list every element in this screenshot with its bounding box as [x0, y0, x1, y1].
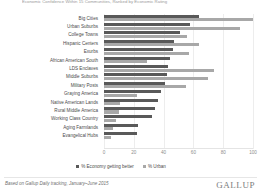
category-label: Graying America	[0, 90, 101, 98]
bar-urban	[104, 136, 111, 139]
chart-title: Economic Confidence Within 15 Communitie…	[22, 0, 238, 5]
category-label: Hispanic Centers	[0, 39, 101, 47]
bar-urban	[104, 69, 214, 72]
category-label: Exurbs	[0, 48, 101, 56]
bar-row	[104, 22, 253, 30]
bar-row	[104, 31, 253, 39]
x-tick-label: 40	[161, 150, 166, 155]
bar-urban	[104, 60, 147, 63]
bar-row	[104, 14, 253, 22]
legend-label: % Economy getting better	[81, 164, 134, 169]
legend: % Economy getting better% Urban	[76, 164, 166, 169]
bar-urban	[104, 43, 199, 46]
footer-divider	[4, 177, 257, 178]
bar-row	[104, 81, 253, 89]
category-label: Rural Middle America	[0, 106, 101, 114]
bar-urban	[104, 27, 240, 30]
x-tick-label: 80	[221, 150, 226, 155]
bar-urban	[104, 35, 187, 38]
bar-row	[104, 98, 253, 106]
bar-row	[104, 56, 253, 64]
bar-urban	[104, 110, 119, 113]
bar-rows	[104, 14, 253, 149]
x-axis-line	[104, 148, 253, 149]
bar-urban	[104, 102, 120, 105]
category-label: African American South	[0, 56, 101, 64]
category-label: Evangelical Hubs	[0, 131, 101, 139]
legend-item-urban[interactable]: % Urban	[143, 164, 166, 169]
legend-label: % Urban	[148, 164, 166, 169]
category-label: Military Posts	[0, 81, 101, 89]
bar-urban	[104, 94, 137, 97]
category-label: Big Cities	[0, 14, 101, 22]
gridline	[253, 14, 254, 149]
bar-row	[104, 48, 253, 56]
chart-container: Economic Confidence Within 15 Communitie…	[0, 0, 261, 194]
category-label: Urban Suburbs	[0, 22, 101, 30]
bar-row	[104, 123, 253, 131]
category-label: Aging Farmlands	[0, 123, 101, 131]
source-note: Based on Gallup Daily tracking, January–…	[5, 181, 109, 186]
bar-row	[104, 39, 253, 47]
bar-urban	[104, 77, 208, 80]
bar-row	[104, 106, 253, 114]
bar-row	[104, 73, 253, 81]
bar-urban	[104, 52, 189, 55]
category-label: Middle Suburbs	[0, 73, 101, 81]
legend-item-economy[interactable]: % Economy getting better	[76, 164, 134, 169]
x-axis-tick-labels: 020406080100	[104, 150, 253, 158]
bar-urban	[104, 85, 186, 88]
bar-urban	[104, 119, 116, 122]
plot-area	[104, 14, 253, 149]
bar-row	[104, 90, 253, 98]
category-label: Native American Lands	[0, 98, 101, 106]
x-tick-label: 0	[103, 150, 106, 155]
x-tick-label: 20	[131, 150, 136, 155]
bar-row	[104, 131, 253, 139]
x-tick-label: 100	[249, 150, 257, 155]
bar-row	[104, 64, 253, 72]
bar-urban	[104, 18, 253, 21]
legend-swatch-economy	[76, 165, 79, 168]
category-label: College Towns	[0, 31, 101, 39]
category-label: LDS Enclaves	[0, 64, 101, 72]
legend-swatch-urban	[143, 165, 146, 168]
category-axis-labels: Big CitiesUrban SuburbsCollege TownsHisp…	[0, 14, 101, 149]
bar-urban	[104, 127, 113, 130]
gallup-logo: GALLUP	[216, 180, 255, 190]
bar-row	[104, 115, 253, 123]
category-label: Working Class Country	[0, 115, 101, 123]
x-tick-label: 60	[191, 150, 196, 155]
